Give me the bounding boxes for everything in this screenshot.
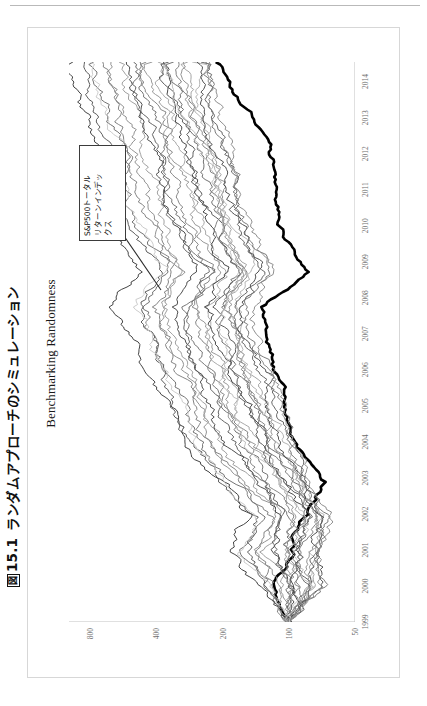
figure-caption-mark: 図 [7,574,20,587]
figure-caption-num-text: 15.1 [4,538,20,572]
y-tick-label: 400 [152,628,161,639]
x-tick-label: 2005 [361,398,370,413]
series-line-simulation [144,62,296,622]
figure-caption: 図15.1 ランダムアプローチのシミュレーション [0,247,27,587]
x-tick-label: 2001 [361,542,370,557]
y-tick-label: 50 [351,628,360,636]
x-tick-label: 2013 [361,110,370,125]
x-tick-label: 2010 [361,218,370,233]
figure-caption-number: 図15.1 [4,538,20,587]
x-tick-label: 2000 [361,578,370,593]
chart-title: Benchmarking Randomness [43,29,59,678]
x-tick-label: 2008 [361,290,370,305]
y-tick-label: 200 [218,628,227,639]
x-tick-label: 2004 [361,434,370,449]
y-tick-label: 100 [284,628,293,639]
figure-caption-text: ランダムアプローチのシミュレーション [2,286,22,531]
x-tick-label: 2007 [361,326,370,341]
y-axis-labels: 80040020010050 [69,624,355,678]
series-line-simulation [139,62,300,622]
callout-line-3: クス [104,150,115,236]
x-tick-label: 2009 [361,254,370,269]
x-tick-label: 2014 [361,74,370,89]
series-line-simulation [201,62,323,622]
x-axis-labels: 1999200020012002200320042005200620072008… [357,62,379,622]
x-tick-label: 2006 [361,362,370,377]
page-top-rule [10,5,420,6]
callout-box: S&P500トータル リターンインデッ クス [79,145,126,241]
x-tick-label: 1999 [361,615,370,630]
x-tick-label: 2002 [361,506,370,521]
series-line-simulation [155,62,306,622]
figure-frame: Benchmarking Randomness 80040020010050 1… [27,27,400,678]
x-tick-label: 2012 [361,146,370,161]
x-tick-label: 2003 [361,470,370,485]
callout-line-2: リターンインデッ [94,150,105,236]
x-tick-label: 2011 [361,182,370,197]
chart-canvas: Benchmarking Randomness 80040020010050 1… [29,29,400,678]
y-tick-label: 800 [86,628,95,639]
callout-line-1: S&P500トータル [83,150,94,236]
